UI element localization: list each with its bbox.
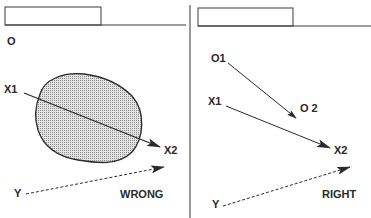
end-label: X2 <box>164 144 177 156</box>
start-label: X1 <box>4 83 17 95</box>
target-label: Y <box>14 187 22 199</box>
observer-label: O <box>7 35 16 47</box>
observer-end-label: O 2 <box>300 102 318 114</box>
right-bar-box <box>198 8 293 26</box>
left-bar-box <box>5 7 101 25</box>
right-y-dashed-arrow <box>223 167 350 206</box>
right-target-label: Y <box>212 198 220 210</box>
verdict-wrong: WRONG <box>120 188 163 200</box>
left-panel: O X1 X2 Y WRONG <box>4 7 186 200</box>
diagram: O X1 X2 Y WRONG O1 O 2 X1 X2 Y RIGHT <box>0 0 371 218</box>
right-start-label: X1 <box>208 95 221 107</box>
observer-start-label: O1 <box>211 52 226 64</box>
right-end-label: X2 <box>334 144 347 156</box>
right-panel: O1 O 2 X1 X2 Y RIGHT <box>198 8 371 210</box>
verdict-right: RIGHT <box>322 188 357 200</box>
observer-arrow <box>228 63 296 118</box>
